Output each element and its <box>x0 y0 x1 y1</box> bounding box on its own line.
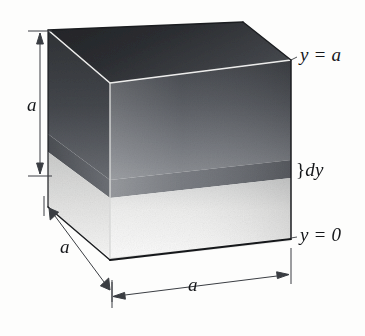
cube-front-face <box>108 58 294 260</box>
label-width-a: a <box>188 275 198 294</box>
width-arrowhead-right <box>277 272 289 279</box>
dy-brace: } <box>296 159 305 180</box>
level-leaders <box>291 57 297 238</box>
label-dy-text: dy <box>305 159 323 180</box>
label-y-equals-a: y = a <box>300 45 341 64</box>
height-arrowhead-top <box>37 33 44 44</box>
label-height-a: a <box>27 95 37 114</box>
leader-y-bottom <box>291 237 297 238</box>
label-depth-a: a <box>60 237 70 256</box>
width-dimension-line <box>113 275 289 297</box>
label-dy-group: }dy <box>296 160 324 179</box>
figure-container: y = a }dy y = 0 a a a <box>0 0 365 336</box>
leader-y-top <box>291 57 297 60</box>
cube-body <box>48 22 294 261</box>
height-arrowhead-bottom <box>37 163 44 174</box>
width-arrowhead-left <box>113 292 125 299</box>
label-y-equals-0: y = 0 <box>300 225 341 244</box>
